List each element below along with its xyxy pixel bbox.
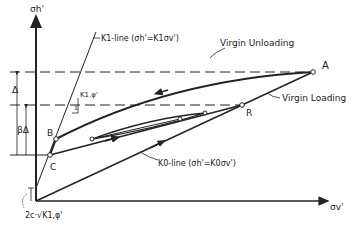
- loop-line: [92, 119, 180, 139]
- k1-line: [36, 32, 96, 188]
- slope-label: K1,φ': [80, 91, 98, 99]
- loop-start-point: [90, 137, 94, 141]
- loop-end-point: [203, 111, 207, 115]
- point-a-marker: [311, 70, 316, 75]
- point-c-label: C: [50, 162, 56, 172]
- loading-leader: [267, 93, 280, 98]
- point-b-marker: [54, 137, 59, 142]
- k0-line: [36, 72, 313, 201]
- beta-delta-label: βΔ: [17, 125, 30, 135]
- x-axis-label: σv': [330, 202, 344, 212]
- intercept-label: 2c·√K1,φ': [25, 211, 62, 220]
- loop-mid-point: [178, 117, 182, 121]
- point-c-marker: [48, 153, 53, 158]
- point-a-label: A: [322, 60, 329, 71]
- point-r-label: R: [246, 108, 252, 118]
- stress-path-diagram: σh' σv' K1-line (σh'=K1σv') K0-line (σh'…: [0, 0, 354, 229]
- unloading-leader: [210, 48, 225, 58]
- virgin-unloading-label: Virgin Unloading: [220, 38, 294, 48]
- k0-arrow: [150, 142, 162, 148]
- k0-line-label: K0-line (σh'=K0σv'): [158, 159, 236, 168]
- virgin-loading-label: Virgin Loading: [282, 93, 346, 103]
- point-r-marker: [240, 103, 245, 108]
- slope-run-label: 1: [74, 104, 78, 111]
- y-axis-label: σh': [30, 4, 44, 14]
- point-b-label: B: [47, 128, 53, 138]
- reloading-path: [50, 105, 242, 155]
- k0-leader: [140, 152, 158, 160]
- delta-label: Δ: [12, 85, 19, 95]
- k1-line-label: K1-line (σh'=K1σv'): [101, 34, 179, 43]
- unloading-arrow: [158, 90, 168, 93]
- intercept-leader: [23, 194, 27, 208]
